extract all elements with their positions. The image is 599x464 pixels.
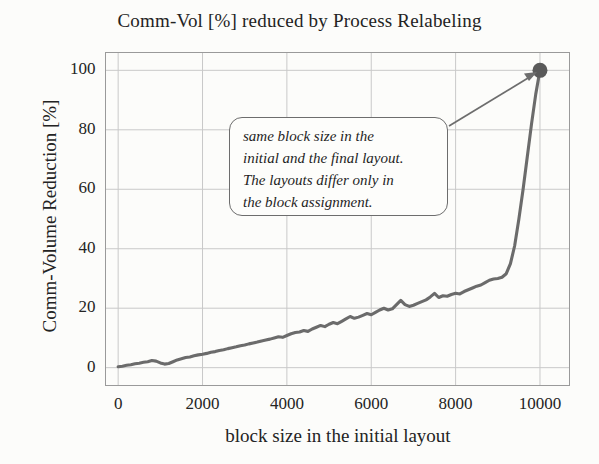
y-axis-label: Comm-Volume Reduction [%] <box>39 56 61 376</box>
x-tick-label: 10000 <box>500 394 580 414</box>
endpoint-marker <box>532 63 547 78</box>
callout-line-4: the block assignment. <box>243 191 436 213</box>
x-tick-label: 2000 <box>163 394 243 414</box>
x-axis-label: block size in the initial layout <box>105 425 571 447</box>
x-tick-label: 6000 <box>331 394 411 414</box>
chart-page: Comm-Vol [%] reduced by Process Relabeli… <box>0 0 599 464</box>
callout-arrow-line <box>449 75 533 126</box>
callout-line-1: same block size in the <box>243 125 436 147</box>
x-tick-label: 4000 <box>247 394 327 414</box>
callout-line-3: The layouts differ only in <box>243 169 436 191</box>
data-series-line <box>118 70 540 366</box>
gridlines <box>106 53 570 386</box>
callout-line-2: initial and the final layout. <box>243 147 436 169</box>
x-tick-label: 0 <box>78 394 158 414</box>
plot-frame <box>106 53 570 386</box>
x-tick-label: 8000 <box>416 394 496 414</box>
annotation-callout-box: same block size in the initial and the f… <box>229 117 448 216</box>
